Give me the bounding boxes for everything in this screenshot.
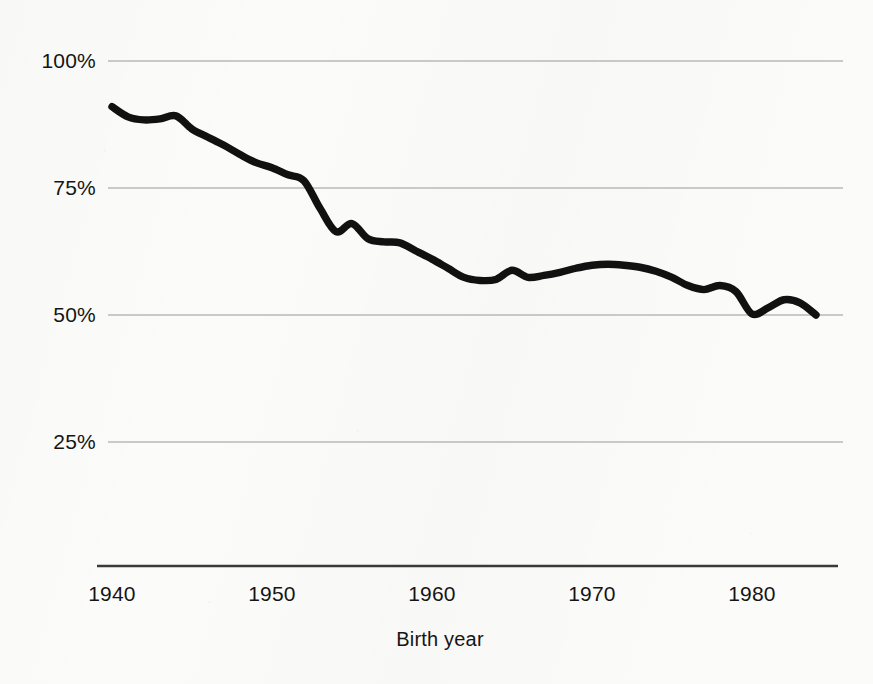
y-tick-label-75: 75% xyxy=(24,176,96,200)
data-line-series-share xyxy=(112,107,816,315)
y-tick-label-100: 100% xyxy=(24,49,96,73)
x-tick-label-1940: 1940 xyxy=(88,582,136,606)
y-tick-label-25: 25% xyxy=(24,430,96,454)
chart-figure: 100%75%50%25% 19401950196019701980 Birth… xyxy=(0,0,873,684)
gridlines-group xyxy=(108,61,843,442)
x-tick-label-1980: 1980 xyxy=(728,582,776,606)
y-tick-label-50: 50% xyxy=(24,303,96,327)
x-axis-title: Birth year xyxy=(396,628,484,651)
x-tick-label-1970: 1970 xyxy=(568,582,616,606)
x-tick-label-1960: 1960 xyxy=(408,582,456,606)
x-tick-label-1950: 1950 xyxy=(248,582,296,606)
